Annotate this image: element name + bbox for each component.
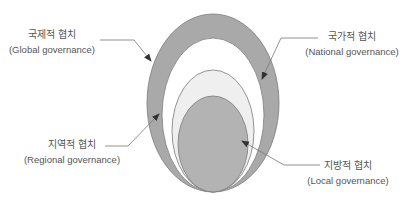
label-regional-en: (Regional governance): [20, 152, 124, 167]
label-regional-ko: 지역적 협치: [20, 137, 124, 152]
label-local-en: (Local governance): [300, 173, 396, 188]
label-national: 국가적 협치 (National governance): [300, 29, 404, 59]
ellipse-local: [178, 96, 248, 192]
label-local-ko: 지방적 협치: [300, 158, 396, 173]
label-global: 국제적 협치 (Global governance): [4, 27, 100, 57]
label-regional: 지역적 협치 (Regional governance): [20, 137, 124, 167]
label-global-ko: 국제적 협치: [4, 27, 100, 42]
label-local: 지방적 협치 (Local governance): [300, 158, 396, 188]
label-national-en: (National governance): [300, 44, 404, 59]
label-global-en: (Global governance): [4, 42, 100, 57]
label-national-ko: 국가적 협치: [300, 29, 404, 44]
arrow-global: [100, 40, 151, 61]
